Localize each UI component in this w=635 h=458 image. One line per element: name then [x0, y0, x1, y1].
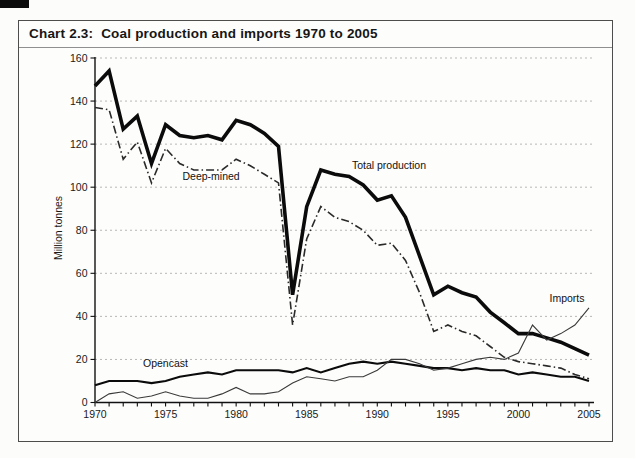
- y-tick-label-0: 0: [82, 396, 88, 408]
- x-tick-label-1975: 1975: [154, 408, 178, 420]
- data-series-lines: [95, 71, 589, 403]
- y-tick-label-40: 40: [76, 310, 88, 322]
- x-tick-label-1980: 1980: [224, 408, 248, 420]
- series-label-opencast: Opencast: [143, 357, 188, 369]
- x-tick-label-1990: 1990: [366, 408, 390, 420]
- y-tick-label-120: 120: [70, 138, 88, 150]
- series-label-imports: Imports: [549, 292, 584, 304]
- deep-mined-line: [95, 108, 589, 379]
- y-tick-label-80: 80: [76, 224, 88, 236]
- series-label-deep-mined: Deep-mined: [183, 170, 240, 182]
- total-production-line: [95, 71, 589, 355]
- x-tick-label-1970: 1970: [83, 408, 107, 420]
- x-tick-label-1995: 1995: [436, 408, 460, 420]
- y-tick-label-160: 160: [70, 52, 88, 64]
- y-tick-label-140: 140: [70, 95, 88, 107]
- y-tick-label-100: 100: [70, 181, 88, 193]
- imports-line: [95, 308, 589, 403]
- series-inline-labels: Deep-minedTotal productionOpencastImport…: [143, 159, 585, 369]
- gridlines: [95, 58, 592, 359]
- x-axis-tick-labels: 19701975198019851990199520002005: [83, 408, 601, 420]
- x-tick-label-1985: 1985: [295, 408, 319, 420]
- series-label-total-production: Total production: [352, 159, 426, 171]
- x-tick-label-2005: 2005: [577, 408, 601, 420]
- scanned-chart-page: Chart 2.3: Coal production and imports 1…: [0, 0, 635, 458]
- y-tick-label-60: 60: [76, 267, 88, 279]
- chart-canvas: 020406080100120140160 197019751980198519…: [0, 0, 635, 458]
- y-tick-label-20: 20: [76, 353, 88, 365]
- y-axis-tick-labels: 020406080100120140160: [70, 52, 88, 409]
- y-axis-title: Million tonnes: [52, 196, 64, 260]
- x-tick-label-2000: 2000: [507, 408, 531, 420]
